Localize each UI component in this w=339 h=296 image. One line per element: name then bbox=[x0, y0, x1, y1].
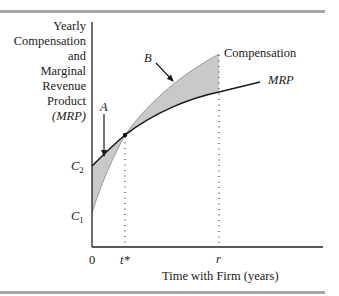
diagram-canvas: A B Compensation MRP C2 C1 0 t* r Time w… bbox=[0, 0, 339, 296]
c1-label: C1 bbox=[71, 209, 84, 225]
region-b-label: B bbox=[144, 51, 152, 65]
region-b-shade bbox=[125, 54, 219, 135]
x-axis-label: Time with Firm (years) bbox=[162, 269, 279, 283]
t-star-label: t* bbox=[120, 253, 130, 267]
region-a-label: A bbox=[99, 100, 108, 114]
mrp-label: MRP bbox=[267, 73, 294, 87]
compensation-label: Compensation bbox=[224, 46, 297, 60]
origin-label: 0 bbox=[89, 253, 95, 267]
arrow-b bbox=[156, 63, 173, 81]
region-a-shade bbox=[92, 135, 125, 213]
intersection-point bbox=[123, 133, 127, 137]
c2-label: C2 bbox=[71, 159, 84, 175]
r-label: r bbox=[216, 252, 221, 266]
